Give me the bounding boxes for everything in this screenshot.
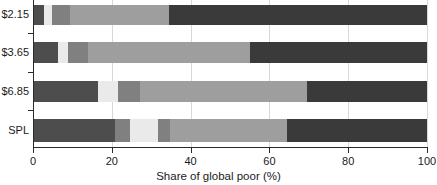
x-axis-label-0: 0 (30, 155, 36, 167)
y-axis-label-SPL: SPL (1, 125, 29, 136)
bar-segment (33, 119, 115, 142)
x-axis-label-80: 80 (342, 155, 354, 167)
y-axis-label-365: $3.65 (1, 47, 29, 58)
bar-segment (158, 119, 170, 142)
y-axis-line (33, 0, 34, 147)
bar-segment (250, 42, 427, 63)
x-axis-label-100: 100 (418, 155, 436, 167)
y-axis-label-685: $6.85 (1, 86, 29, 97)
bar-segment (130, 119, 158, 142)
bar-segment (33, 5, 44, 25)
bar-segment (140, 81, 307, 102)
x-axis-tick-40 (191, 148, 192, 153)
x-axis-tick-100 (427, 148, 428, 153)
bar-row (33, 42, 427, 63)
bar-row (33, 81, 427, 102)
bar-segment (52, 5, 70, 25)
bar-segment (98, 81, 118, 102)
x-axis-label-20: 20 (106, 155, 118, 167)
y-axis-tick (28, 33, 33, 34)
plot-area (33, 0, 427, 147)
x-axis-tick-60 (269, 148, 270, 153)
bar-segment (70, 5, 169, 25)
bar-segment (169, 5, 427, 25)
stacked-bar-chart: $2.15$3.65$6.85SPL Share of global poor … (0, 0, 437, 185)
bar-row (33, 119, 427, 142)
bar-segment (44, 5, 52, 25)
y-axis-label-215: $2.15 (1, 9, 29, 20)
bar-segment (115, 119, 130, 142)
x-axis-label-60: 60 (263, 155, 275, 167)
y-axis-tick (28, 110, 33, 111)
x-axis-title: Share of global poor (%) (0, 170, 437, 183)
x-axis-line (33, 147, 428, 148)
bar-row (33, 5, 427, 25)
y-axis-tick (28, 72, 33, 73)
x-axis-tick-80 (348, 148, 349, 153)
y-axis-labels: $2.15$3.65$6.85SPL (0, 0, 29, 150)
x-axis-tick-0 (33, 148, 34, 153)
x-axis-tick-20 (112, 148, 113, 153)
bar-segment (33, 81, 98, 102)
bar-segment (287, 119, 427, 142)
gridline-100 (427, 0, 428, 147)
bar-segment (307, 81, 427, 102)
bar-segment (88, 42, 250, 63)
bar-segment (68, 42, 88, 63)
bar-segment (170, 119, 287, 142)
bar-segment (58, 42, 68, 63)
bar-segment (33, 42, 58, 63)
x-axis-label-40: 40 (184, 155, 196, 167)
bar-segment (118, 81, 140, 102)
